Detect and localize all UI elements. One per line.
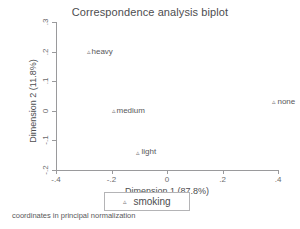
y-tick-label: -.2: [41, 163, 50, 177]
triangle-marker-icon: ▵: [112, 107, 116, 114]
data-point-label: medium: [117, 107, 145, 115]
x-tick-label: 0: [165, 175, 169, 184]
plot-area: ▵heavy▵medium▵light▵none: [56, 22, 278, 170]
x-tick: [112, 170, 113, 174]
y-tick: [52, 170, 56, 171]
x-tick-label: .2: [219, 175, 226, 184]
footnote: coordinates in principal normalization: [12, 211, 135, 220]
x-tick: [223, 170, 224, 174]
x-tick-label: .4: [275, 175, 282, 184]
y-tick: [52, 140, 56, 141]
data-point-none: ▵none: [272, 98, 295, 106]
y-axis-label: Dimension 2 (11.8%): [28, 21, 38, 181]
y-tick-label: -.1: [41, 133, 50, 147]
x-tick: [278, 170, 279, 174]
triangle-marker-icon: ▵: [272, 98, 276, 105]
y-tick: [52, 81, 56, 82]
y-tick-label: .1: [41, 74, 50, 88]
y-tick: [52, 22, 56, 23]
y-tick: [52, 111, 56, 112]
legend: ▵ smoking: [104, 192, 190, 211]
triangle-marker-icon: ▵: [136, 149, 140, 156]
x-tick-label: -.2: [107, 175, 116, 184]
data-point-light: ▵light: [136, 148, 156, 156]
data-point-heavy: ▵heavy: [87, 48, 113, 56]
data-point-label: light: [141, 148, 156, 156]
x-tick-label: -.4: [51, 175, 60, 184]
x-tick: [167, 170, 168, 174]
data-point-label: heavy: [92, 48, 113, 56]
data-point-medium: ▵medium: [112, 107, 145, 115]
x-tick: [56, 170, 57, 174]
data-point-label: none: [277, 98, 295, 106]
y-tick: [52, 52, 56, 53]
triangle-marker-icon: ▵: [123, 198, 127, 205]
triangle-marker-icon: ▵: [87, 48, 91, 55]
y-tick-label: .2: [41, 45, 50, 59]
y-tick-label: 0: [41, 104, 50, 118]
y-tick-label: .3: [41, 15, 50, 29]
legend-label-smoking: smoking: [133, 197, 170, 207]
